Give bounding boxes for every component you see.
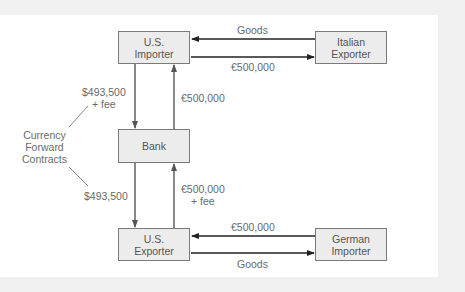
arrows-layer [0, 0, 465, 292]
us-importer-box: U.S.Importer [118, 31, 190, 64]
bank-exporter-label: $493,500 [84, 190, 128, 202]
euro-label-top: €500,000 [231, 61, 275, 73]
goods-label-top: Goods [237, 24, 268, 36]
bank-box: Bank [118, 129, 190, 163]
us-exporter-box: U.S.Exporter [118, 228, 190, 261]
leader-line-bottom [69, 167, 88, 186]
exporter-bank-label: €500,000 + fee [181, 183, 225, 207]
german-importer-box: GermanImporter [315, 228, 387, 261]
goods-label-bottom: Goods [237, 258, 268, 270]
euro-label-bottom: €500,000 [231, 221, 275, 233]
currency-forward-contracts-label: Currency Forward Contracts [22, 129, 67, 165]
importer-bank-label: $493,500 + fee [82, 86, 126, 110]
bank-importer-label: €500,000 [181, 92, 225, 104]
italian-exporter-box: ItalianExporter [315, 31, 387, 64]
